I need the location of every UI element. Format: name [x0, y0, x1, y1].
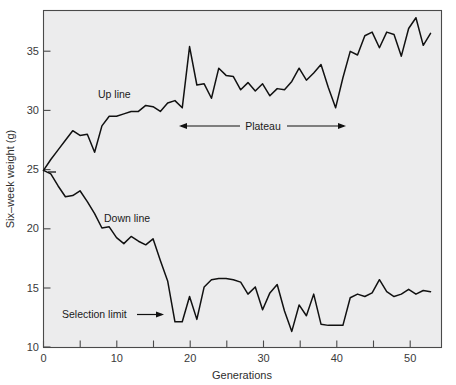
y-tick-label-10: 10 [27, 341, 39, 353]
x-tick-label-20: 20 [184, 352, 196, 364]
x-axis-title: Generations [212, 369, 272, 381]
y-axis-title: Six–week weight (g) [4, 130, 16, 228]
plot-area-background [44, 11, 442, 348]
x-tick-label-50: 50 [404, 352, 416, 364]
y-axis-tick-labels: 35 30 25 20 15 10 [27, 45, 39, 353]
y-tick-label-25: 25 [27, 163, 39, 175]
y-tick-label-15: 15 [27, 282, 39, 294]
x-tick-label-30: 30 [257, 352, 269, 364]
x-tick-label-10: 10 [111, 352, 123, 364]
chart-figure: 35 30 25 20 15 10 0 10 20 30 40 [0, 0, 456, 385]
y-tick-label-30: 30 [27, 104, 39, 116]
up-line-label: Up line [98, 88, 131, 100]
x-tick-label-0: 0 [40, 352, 46, 364]
down-line-label: Down line [104, 212, 150, 224]
y-tick-label-35: 35 [27, 45, 39, 57]
x-tick-label-40: 40 [331, 352, 343, 364]
x-axis-tick-labels: 0 10 20 30 40 50 [40, 352, 416, 364]
y-tick-label-20: 20 [27, 222, 39, 234]
selection-limit-label: Selection limit [62, 308, 127, 320]
plateau-label: Plateau [245, 120, 281, 132]
line-chart: 35 30 25 20 15 10 0 10 20 30 40 [0, 0, 456, 385]
